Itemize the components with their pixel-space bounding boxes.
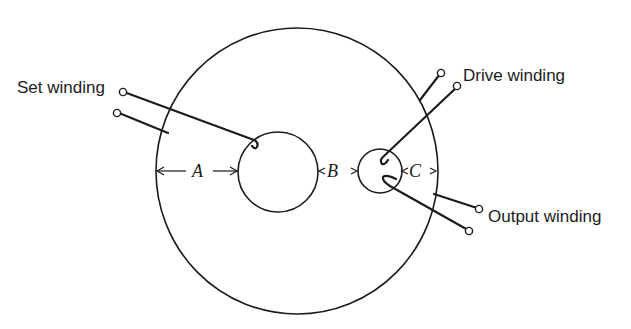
dimension-a-label: A [191,161,204,181]
drive-winding-label: Drive winding [463,66,565,85]
set-winding-terminal-2 [113,109,120,116]
dimension-b: B [319,161,357,181]
dimension-b-label: B [327,161,338,181]
large-aperture [238,132,318,212]
dimension-c-label: C [409,161,422,181]
set-winding-terminal-1 [119,88,126,95]
set-winding [113,88,257,148]
dimension-c: C [402,161,436,181]
small-aperture [358,149,402,193]
output-winding-terminal-2 [465,227,472,234]
transfluxor-diagram: A B C Set winding Drive winding Output w… [0,0,631,329]
drive-winding [381,69,461,164]
drive-winding-terminal-2 [453,82,460,89]
drive-winding-terminal-1 [437,69,444,76]
output-winding-terminal-1 [475,205,482,212]
output-winding-label: Output winding [488,207,601,226]
set-winding-label: Set winding [17,78,105,97]
dimension-a: A [157,161,237,181]
